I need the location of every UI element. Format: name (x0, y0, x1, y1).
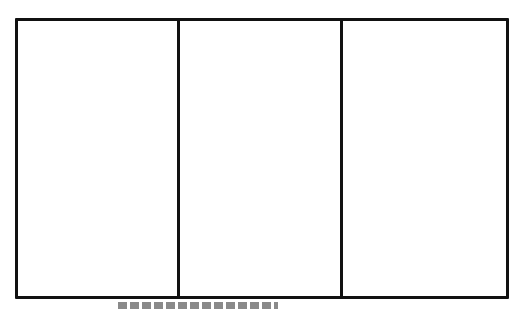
panel-left (18, 21, 180, 296)
three-panel-frame (15, 18, 509, 299)
panel-right (343, 21, 506, 296)
caption-glyph-tops (118, 302, 278, 309)
cropped-caption (118, 302, 278, 309)
panel-middle (180, 21, 343, 296)
